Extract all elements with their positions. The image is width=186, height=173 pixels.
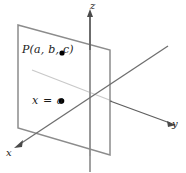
- point-P-label: P(a, b, c): [22, 44, 74, 55]
- plane-equation-label: x = a: [32, 95, 64, 106]
- figure-container: P(a, b, c) x = a x y z: [0, 0, 186, 173]
- y-axis-line: [110, 101, 170, 123]
- z-axis-label: z: [90, 1, 95, 11]
- y-axis-label: y: [172, 119, 178, 129]
- coordinate-system-diagram: [0, 0, 186, 173]
- x-axis-arrowhead-icon: [14, 140, 23, 148]
- x-axis-label: x: [6, 148, 12, 158]
